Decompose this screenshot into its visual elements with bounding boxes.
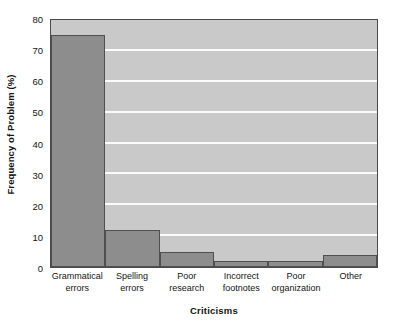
x-axis-title: Criticisms: [50, 305, 378, 316]
bar-chart: Frequency of Problem (%) 010203040506070…: [0, 0, 406, 326]
x-tick-label-line2: organization: [270, 283, 323, 295]
y-tick-label: 60: [32, 76, 43, 87]
y-axis-title: Frequency of Problem (%): [0, 0, 20, 268]
bar-poor-organization[interactable]: [268, 261, 322, 267]
x-tick-label-line1: Spelling: [116, 271, 148, 281]
bar-spelling-errors[interactable]: [105, 230, 159, 267]
x-tick-label: Spellingerrors: [105, 271, 160, 299]
bar-cell: [323, 20, 377, 267]
x-tick-label: Other: [323, 271, 378, 299]
bar-cell: [160, 20, 214, 267]
bar-cell: [268, 20, 322, 267]
x-tick-label: Poorresearch: [159, 271, 214, 299]
x-tick-label: Incorrectfootnotes: [214, 271, 269, 299]
x-tick-label-line2: errors: [106, 283, 159, 295]
bar-other[interactable]: [323, 255, 377, 267]
bar-cell: [51, 20, 105, 267]
x-axis-tick-labels: GrammaticalerrorsSpellingerrorsPoorresea…: [50, 271, 378, 299]
y-axis-title-text: Frequency of Problem (%): [5, 74, 16, 194]
y-axis-tick-labels: 01020304050607080: [20, 19, 47, 268]
x-tick-label-line1: Other: [339, 271, 362, 281]
bar-incorrect-footnotes[interactable]: [214, 261, 268, 267]
x-tick-label: Poororganization: [269, 271, 324, 299]
x-tick-label-line2: research: [160, 283, 213, 295]
plot-area: [50, 19, 378, 268]
y-tick-label: 10: [32, 231, 43, 242]
x-tick-label-line2: footnotes: [215, 283, 268, 295]
x-tick-label-line2: errors: [51, 283, 104, 295]
y-tick-label: 80: [32, 14, 43, 25]
x-tick-label: Grammaticalerrors: [50, 271, 105, 299]
bar-poor-research[interactable]: [160, 252, 214, 267]
x-tick-label-line1: Grammatical: [52, 271, 103, 281]
bars-group: [51, 20, 377, 267]
x-tick-label-line1: Incorrect: [224, 271, 259, 281]
bar-cell: [105, 20, 159, 267]
y-tick-label: 50: [32, 107, 43, 118]
y-tick-label: 40: [32, 138, 43, 149]
x-tick-label-line1: Poor: [287, 271, 306, 281]
y-tick-label: 70: [32, 45, 43, 56]
y-tick-label: 30: [32, 169, 43, 180]
y-tick-label: 20: [32, 200, 43, 211]
y-tick-label: 0: [38, 263, 43, 274]
bar-grammatical-errors[interactable]: [51, 35, 105, 267]
x-tick-label-line1: Poor: [177, 271, 196, 281]
bar-cell: [214, 20, 268, 267]
